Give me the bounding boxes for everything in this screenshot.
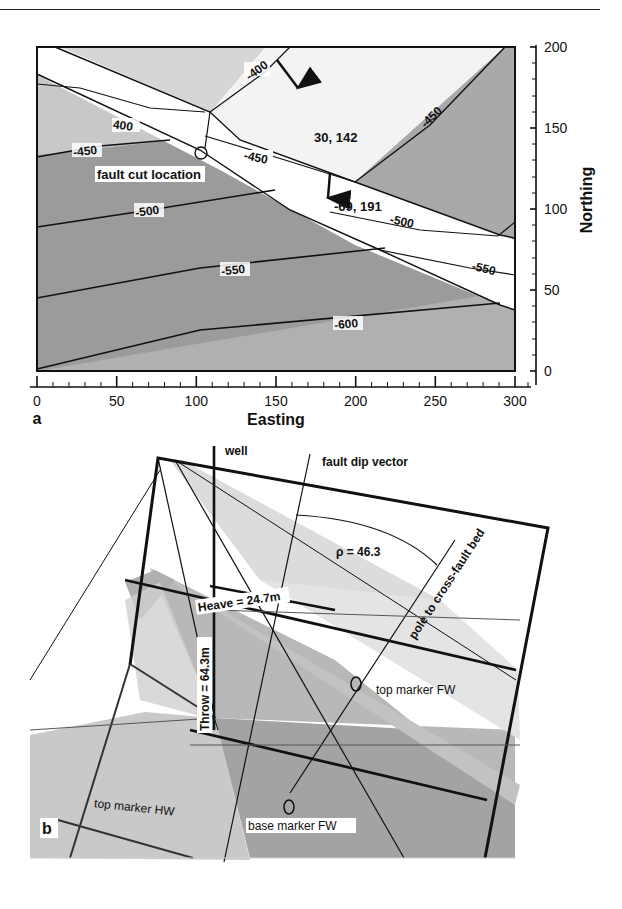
y-axis: 200 150 100 50 0 Northing [530,39,595,385]
hw-lower-block [30,712,250,860]
panel-a-map: 400 -400 -450 -450 -450 -500 -500 -550 -… [30,39,595,428]
x-tick-0: 0 [33,393,41,409]
well-label: well [224,444,248,458]
fault-dip-vector-label: fault dip vector [322,455,408,469]
x-tick-250: 250 [424,393,448,409]
x-tick-50: 50 [109,393,125,409]
contour-label-hw-550: -550 [220,262,246,278]
panel-b-label: b [42,820,52,837]
contour-label-hw-600: -600 [334,316,359,332]
throw-label: Throw = 64.3m [198,647,212,731]
y-tick-0: 0 [544,363,552,379]
panel-a-label: a [33,410,42,427]
contour-label-hw-400: 400 [112,117,134,134]
x-axis-title: Easting [247,411,305,428]
y-axis-title: Northing [578,167,595,234]
x-tick-200: 200 [344,393,368,409]
y-tick-200: 200 [544,39,568,55]
x-axis: 0 50 100 150 200 250 300 Easting a [30,376,531,428]
x-tick-300: 300 [503,393,527,409]
dip-vector-label-1: 30, 142 [314,130,357,145]
y-tick-100: 100 [544,201,568,217]
rho-label: ρ = 46.3 [336,545,381,559]
x-tick-150: 150 [264,393,288,409]
y-tick-50: 50 [544,282,560,298]
top-marker-fw-label: top marker FW [376,683,456,697]
dip-vector-label-2: -69, 191 [334,199,382,214]
figure-canvas: 400 -400 -450 -450 -450 -500 -500 -550 -… [0,0,622,909]
base-marker-fw-label: base marker FW [248,819,337,833]
y-tick-150: 150 [544,120,568,136]
panel-b-diagram: well fault dip vector ρ = 46.3 pole to c… [30,444,548,862]
contour-label-hw-450: -450 [72,143,98,159]
fault-cut-location-label: fault cut location [97,167,201,182]
x-tick-100: 100 [185,393,209,409]
